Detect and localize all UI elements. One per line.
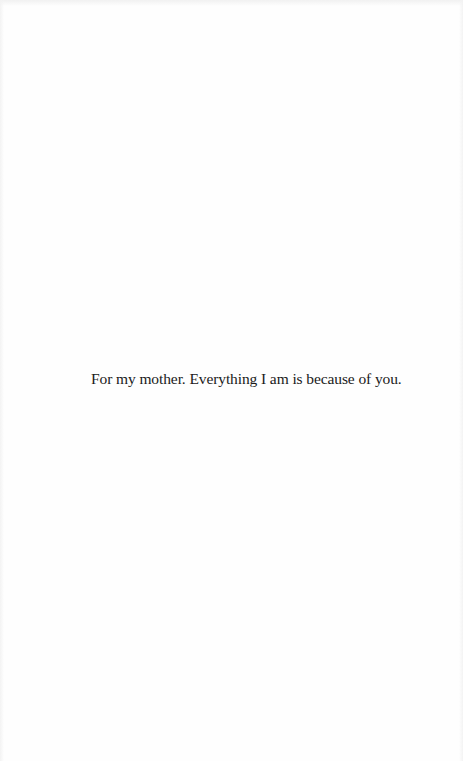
book-page: For my mother. Everything I am is becaus…: [0, 0, 463, 761]
dedication-text: For my mother. Everything I am is becaus…: [91, 369, 402, 389]
scan-edge-right: [459, 0, 463, 761]
scan-edge-left: [0, 0, 4, 761]
scan-edge-top: [0, 0, 463, 6]
